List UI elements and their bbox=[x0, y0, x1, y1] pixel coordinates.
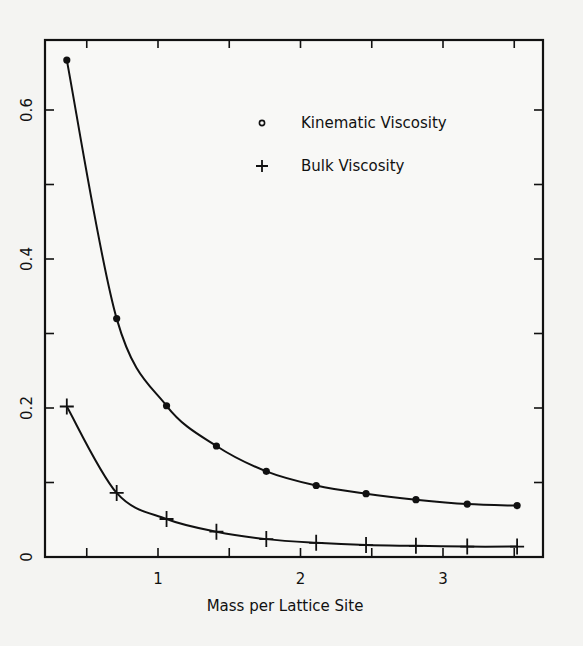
circle-marker-icon bbox=[362, 490, 369, 497]
circle-marker-icon bbox=[464, 501, 471, 508]
circle-marker-icon bbox=[514, 502, 521, 509]
circle-marker-icon bbox=[113, 315, 120, 322]
y-tick-label: 0.6 bbox=[18, 98, 36, 122]
circle-marker-icon bbox=[313, 482, 320, 489]
y-tick-label: 0.2 bbox=[18, 396, 36, 420]
circle-marker-icon bbox=[412, 496, 419, 503]
circle-marker-icon bbox=[63, 56, 70, 63]
x-axis-title: Mass per Lattice Site bbox=[207, 597, 364, 615]
circle-marker-icon bbox=[263, 468, 270, 475]
viscosity-chart: 12300.20.40.6 Kinematic Viscosity Bulk V… bbox=[0, 0, 583, 646]
y-tick-label: 0.4 bbox=[18, 247, 36, 271]
x-tick-label: 3 bbox=[438, 570, 448, 588]
circle-marker-icon bbox=[213, 442, 220, 449]
legend-label-kinematic: Kinematic Viscosity bbox=[301, 114, 447, 132]
x-tick-label: 1 bbox=[153, 570, 163, 588]
y-tick-label: 0 bbox=[18, 552, 36, 562]
x-tick-label: 2 bbox=[296, 570, 306, 588]
figure: 12300.20.40.6 Kinematic Viscosity Bulk V… bbox=[0, 0, 583, 646]
legend-label-bulk: Bulk Viscosity bbox=[301, 157, 405, 175]
circle-marker-icon bbox=[163, 402, 170, 409]
